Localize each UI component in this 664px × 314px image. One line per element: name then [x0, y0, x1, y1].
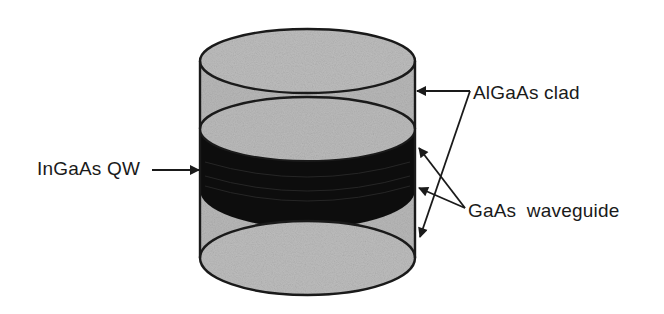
waveguide-arrows [419, 148, 465, 208]
cylinder-layer-diagram [0, 0, 664, 314]
label-gaas-waveguide: GaAs waveguide [468, 201, 619, 220]
label-algaas-clad: AlGaAs clad [473, 83, 580, 102]
clad-arrows [417, 91, 470, 237]
label-ingaas-qw: InGaAs QW [37, 159, 140, 178]
cylinder-body [200, 29, 415, 296]
